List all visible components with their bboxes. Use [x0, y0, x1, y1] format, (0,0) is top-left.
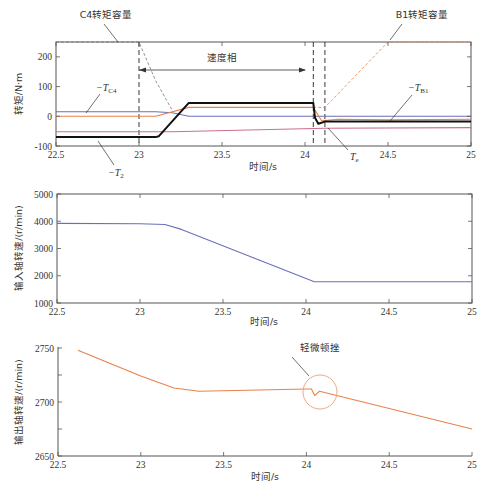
input-speed-xlabel: 时间/s: [250, 316, 278, 327]
input-speed-ylabel: 输入轴转速/(r/min): [13, 205, 24, 291]
output-speed-chart: 22.52323.52424.525265027002750 输出轴转速/(r/…: [13, 342, 477, 482]
torque-xtick-label: 23.5: [214, 150, 231, 160]
torque-xtick-label: 23: [134, 150, 144, 160]
input-speed-plot-frame: [57, 194, 472, 303]
torque-ytick-label: -100: [35, 142, 53, 152]
torque-series-b1: [313, 42, 471, 107]
torque-plot-frame: [56, 42, 471, 146]
input-speed-xtick-label: 23: [135, 307, 145, 317]
torque-xtick-label: 24: [300, 150, 310, 160]
c4-capacity-leader: [104, 24, 118, 42]
torque-ytick-label: 0: [47, 112, 52, 122]
input-speed-ytick-label: 2000: [34, 271, 53, 281]
torque-series-group: [56, 42, 471, 146]
torque-xtick-label: 22.5: [48, 150, 65, 160]
output-speed-ylabel: 输出轴转速/(r/min): [13, 359, 24, 445]
output-speed-ytick-label: 2750: [35, 344, 54, 354]
input-speed-series-group: [57, 223, 472, 281]
input-speed-xtick-label: 24: [301, 307, 311, 317]
input-speed-series-: [57, 223, 472, 281]
torque-ylabel: 转矩/N·m: [13, 73, 24, 116]
jerk-leader: [292, 357, 309, 376]
output-speed-ticks: 22.52323.52424.525265027002750: [35, 344, 477, 471]
torque-series-t-c4: [56, 112, 471, 117]
torque-ticks: 22.52323.52424.525-1000100200: [35, 42, 476, 160]
output-speed-ytick-label: 2700: [35, 398, 54, 408]
torque-ytick-label: 200: [38, 52, 53, 62]
input-speed-ytick-label: 5000: [34, 190, 53, 200]
input-speed-xtick-label: 23.5: [215, 307, 232, 317]
torque-xtick-label: 24.5: [380, 150, 397, 160]
torque-chart: 22.52323.52424.525-1000100200 转矩/N·m 时间/…: [13, 9, 476, 180]
jerk-highlight-circle: [303, 375, 337, 409]
input-speed-xtick-label: 22.5: [49, 307, 66, 317]
input-speed-xtick-label: 24.5: [381, 307, 398, 317]
torque-series-c4: [56, 42, 172, 110]
output-speed-ytick-label: 2650: [35, 452, 54, 462]
output-speed-xtick-label: 25: [467, 460, 477, 470]
input-speed-xtick-label: 25: [467, 307, 477, 317]
b1-capacity-leader: [390, 24, 402, 40]
torque-xtick-label: 25: [466, 150, 476, 160]
t-c4-label: −TC4: [96, 82, 117, 95]
speed-phase-label: 速度相: [207, 52, 237, 63]
t-2-leader: [98, 141, 114, 165]
t-b1-label: −TB1: [408, 82, 429, 95]
input-speed-chart: 22.52323.52424.52510002000300040005000 输…: [13, 190, 477, 328]
torque-series-t-b1: [56, 107, 471, 120]
output-speed-series-: [78, 350, 472, 429]
jerk-label: 轻微顿挫: [300, 342, 340, 353]
t-2-label: −T2: [108, 167, 124, 180]
output-speed-xtick-label: 22.5: [50, 460, 67, 470]
input-speed-ytick-label: 4000: [34, 217, 53, 227]
output-speed-xtick-label: 23.5: [215, 460, 232, 470]
speed-phase-arrow-right-icon: [299, 68, 306, 73]
t-c4-leader: [86, 94, 100, 113]
torque-xlabel: 时间/s: [249, 161, 277, 172]
t-e-label: Te: [350, 151, 359, 164]
input-speed-ytick-label: 3000: [34, 244, 53, 254]
b1-capacity-label: B1转矩容量: [396, 9, 449, 20]
input-speed-ytick-label: 1000: [34, 299, 53, 309]
figure: 22.52323.52424.525-1000100200 转矩/N·m 时间/…: [0, 0, 490, 504]
output-speed-xtick-label: 24: [302, 460, 312, 470]
output-speed-series-group: [78, 350, 472, 429]
output-speed-xtick-label: 23: [136, 460, 146, 470]
input-speed-ticks: 22.52323.52424.52510002000300040005000: [34, 190, 477, 318]
c4-capacity-label: C4转矩容量: [80, 9, 133, 20]
torque-ytick-label: 100: [38, 82, 53, 92]
torque-series-t-2: [56, 128, 471, 132]
speed-phase-arrow-left-icon: [139, 68, 146, 73]
output-speed-xlabel: 时间/s: [251, 471, 279, 482]
t-b1-leader: [390, 95, 412, 121]
output-speed-xtick-label: 24.5: [381, 460, 398, 470]
t-e-leader: [328, 128, 348, 150]
